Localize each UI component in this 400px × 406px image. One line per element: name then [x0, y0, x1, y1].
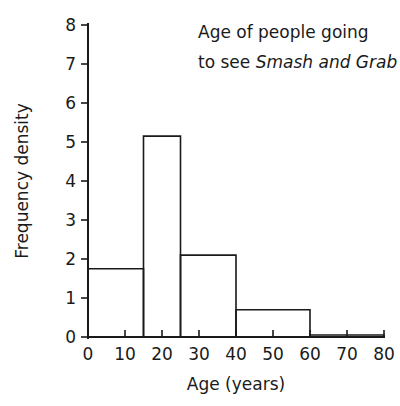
y-axis-ticks — [81, 25, 88, 337]
histogram-bars — [88, 136, 384, 337]
histogram-bar — [88, 269, 144, 337]
y-tick-label-7: 7 — [65, 54, 76, 74]
y-tick-label-4: 4 — [65, 171, 76, 191]
y-tick-label-0: 0 — [65, 327, 76, 347]
chart-title-film-name: Smash and Grab — [256, 52, 398, 72]
y-axis-title: Frequency density — [12, 103, 32, 259]
x-tick-label-20: 20 — [151, 344, 173, 364]
y-axis-tick-labels: 8 7 6 5 4 3 2 1 0 — [65, 15, 76, 347]
y-tick-label-5: 5 — [65, 132, 76, 152]
chart-title-prefix: to see — [198, 52, 256, 72]
y-tick-label-3: 3 — [65, 210, 76, 230]
x-axis-title: Age (years) — [187, 374, 285, 394]
histogram-bar — [181, 255, 237, 337]
x-tick-label-40: 40 — [225, 344, 247, 364]
histogram-chart: Age of people going to see Smash and Gra… — [0, 0, 400, 406]
x-tick-label-70: 70 — [336, 344, 358, 364]
y-tick-label-2: 2 — [65, 249, 76, 269]
chart-title-block: Age of people going to see Smash and Gra… — [198, 22, 397, 72]
x-tick-label-10: 10 — [114, 344, 136, 364]
x-tick-label-0: 0 — [83, 344, 94, 364]
chart-title-line-2: to see Smash and Grab — [198, 52, 397, 72]
y-tick-label-6: 6 — [65, 93, 76, 113]
x-tick-label-50: 50 — [262, 344, 284, 364]
histogram-bar — [144, 136, 181, 337]
x-tick-label-80: 80 — [373, 344, 395, 364]
chart-title-line-1: Age of people going — [198, 22, 369, 42]
x-tick-label-60: 60 — [299, 344, 321, 364]
y-tick-label-1: 1 — [65, 288, 76, 308]
y-tick-label-8: 8 — [65, 15, 76, 35]
x-tick-label-30: 30 — [188, 344, 210, 364]
histogram-figure: Age of people going to see Smash and Gra… — [0, 0, 400, 406]
y-axis: 8 7 6 5 4 3 2 1 0 Frequency density — [12, 15, 88, 347]
x-axis: 0 10 20 30 40 50 60 70 80 Age (years) — [83, 330, 395, 394]
x-axis-tick-labels: 0 10 20 30 40 50 60 70 80 — [83, 344, 395, 364]
